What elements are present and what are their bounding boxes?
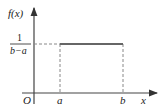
y-axis-label: f(x) [8,7,24,20]
origin-label: O [23,94,31,106]
y-tick-numerator: 1 [17,32,22,43]
x-tick-a: a [57,94,63,106]
x-tick-b: b [120,94,126,106]
x-axis-label: x [140,94,146,106]
y-tick-denominator: b−a [10,45,27,56]
uniform-pdf-chart: f(x) 1 b−a O a b x [0,0,166,112]
